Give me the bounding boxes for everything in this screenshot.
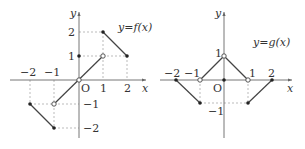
x-tick-1: 1 — [100, 82, 107, 95]
y-tick-1: 1 — [215, 47, 222, 60]
y-axis-label: y — [69, 7, 77, 20]
x-tick-1: 1 — [249, 67, 256, 80]
function-graphs-figure: y x O y=f(x) −2 −1 1 2 2 1 −1 −2 — [0, 0, 305, 149]
graph-g: y x O y=g(x) −2 −1 1 2 1 −1 — [160, 7, 294, 138]
y-tick-neg2: −2 — [83, 122, 99, 135]
y-axis-arrow-icon — [77, 12, 80, 16]
x-tick-2: 2 — [268, 67, 275, 80]
x-axis-label: x — [287, 82, 294, 95]
y-axis-arrow-icon — [222, 12, 225, 16]
graph-f: y x O y=f(x) −2 −1 1 2 2 1 −1 −2 — [10, 7, 152, 138]
origin-label: O — [81, 82, 90, 95]
x-tick-neg2: −2 — [164, 67, 180, 80]
x-tick-neg1: −1 — [44, 66, 60, 79]
origin-label: O — [213, 82, 222, 95]
x-axis-label: x — [142, 82, 149, 95]
y-axis-label: y — [214, 7, 222, 20]
function-label: y=g(x) — [252, 36, 290, 49]
x-tick-neg2: −2 — [20, 66, 36, 79]
y-tick-neg1: −1 — [83, 98, 99, 111]
y-tick-neg1: −1 — [208, 105, 224, 118]
function-label: y=f(x) — [117, 21, 152, 34]
y-tick-2: 2 — [68, 26, 75, 39]
y-tick-1: 1 — [68, 50, 75, 63]
x-tick-neg1: −1 — [184, 67, 200, 80]
x-tick-2: 2 — [124, 82, 131, 95]
